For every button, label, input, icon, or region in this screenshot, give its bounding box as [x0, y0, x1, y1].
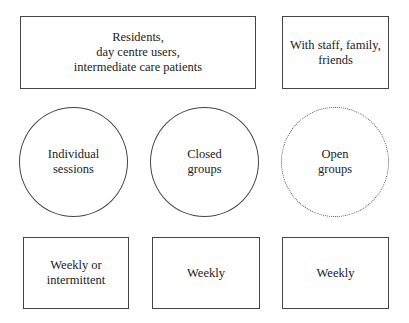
open-groups-circle: Open groups [281, 107, 389, 217]
staff-family-friends-box: With staff, family, friends [282, 16, 389, 89]
frequency-individual-label: Weekly or intermittent [47, 258, 105, 288]
closed-groups-label: Closed groups [187, 147, 222, 177]
closed-groups-circle: Closed groups [150, 107, 259, 217]
frequency-closed-box: Weekly [152, 237, 260, 309]
individual-sessions-label: Individual sessions [48, 147, 99, 177]
frequency-closed-label: Weekly [187, 266, 225, 281]
participants-box: Residents, day centre users, intermediat… [20, 16, 256, 89]
individual-sessions-circle: Individual sessions [19, 107, 128, 217]
staff-family-friends-label: With staff, family, friends [290, 38, 381, 68]
frequency-individual-box: Weekly or intermittent [23, 237, 129, 309]
participants-label: Residents, day centre users, intermediat… [74, 30, 202, 75]
open-groups-label: Open groups [318, 147, 352, 177]
frequency-open-box: Weekly [282, 237, 389, 309]
frequency-open-label: Weekly [317, 266, 355, 281]
